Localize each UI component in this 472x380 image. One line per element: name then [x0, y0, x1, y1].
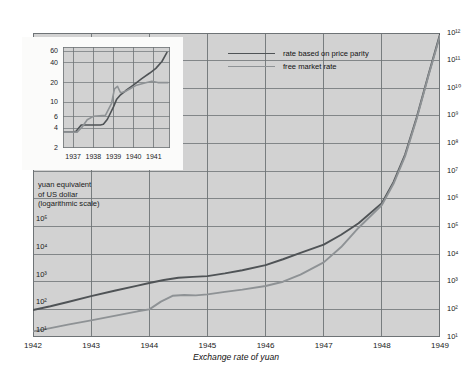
inset-y-tick-4: 4: [32, 124, 58, 131]
y-tick-right-9: 10⁹: [447, 111, 459, 119]
x-tick-1944: 1944: [129, 342, 169, 350]
x-tick-1942: 1942: [13, 342, 53, 350]
y-tick-right-5: 10⁵: [447, 222, 458, 230]
inset-y-tick-10: 10: [32, 98, 58, 105]
inset-plot-svg: [63, 47, 170, 148]
legend: rate based on price parity free market r…: [228, 47, 369, 73]
x-tick-1946: 1946: [246, 342, 286, 350]
y-tick-right-11: 10¹¹: [447, 56, 460, 64]
inset-y-tick-6: 6: [32, 113, 58, 120]
inset-y-tick-2: 2: [32, 144, 58, 151]
y-axis-caption-line: of US dollar: [38, 190, 100, 200]
y-tick-right-4: 10⁴: [447, 250, 459, 258]
legend-swatch-price-parity: [228, 53, 275, 54]
inset-plot-area: [63, 47, 170, 148]
inset-chart-card: 60402010642 19371938193919401941: [22, 37, 183, 170]
legend-item-free-market: free market rate: [228, 60, 369, 73]
y-tick-right-10: 10¹⁰: [447, 84, 461, 92]
y-tick-right-6: 10⁶: [447, 194, 458, 202]
y-tick-right-12: 10¹²: [447, 29, 460, 37]
y-tick-right-7: 10⁷: [447, 167, 458, 175]
y-tick-right-3: 10³: [447, 277, 458, 285]
x-tick-1947: 1947: [304, 342, 344, 350]
y-tick-right-8: 10⁸: [447, 139, 459, 147]
inset-y-tick-20: 20: [32, 79, 58, 86]
y-tick-right-1: 10¹: [447, 333, 458, 341]
x-tick-1949: 1949: [420, 342, 460, 350]
inset-y-tick-60: 60: [32, 47, 58, 54]
y-axis-caption-line: yuan equivalent: [38, 180, 100, 190]
legend-item-price-parity: rate based on price parity: [228, 47, 369, 60]
y-tick-right-2: 10²: [447, 305, 458, 313]
y-axis-caption-line: (logarithmic scale): [38, 199, 100, 209]
x-tick-1943: 1943: [71, 342, 111, 350]
chart-title: Exchange rate of yuan: [0, 352, 472, 362]
legend-swatch-free-market: [228, 66, 275, 67]
inset-x-tick-1941: 1941: [140, 153, 168, 160]
x-tick-1945: 1945: [187, 342, 227, 350]
legend-label-price-parity: rate based on price parity: [283, 50, 369, 58]
x-tick-1948: 1948: [362, 342, 402, 350]
y-axis-caption: yuan equivalentof US dollar(logarithmic …: [38, 180, 100, 209]
inset-y-tick-40: 40: [32, 59, 58, 66]
exchange-rate-chart-figure: 10¹10²10³10⁴10⁵ 10¹10²10³10⁴10⁵10⁶10⁷10⁸…: [0, 0, 472, 380]
legend-label-free-market: free market rate: [283, 63, 337, 71]
